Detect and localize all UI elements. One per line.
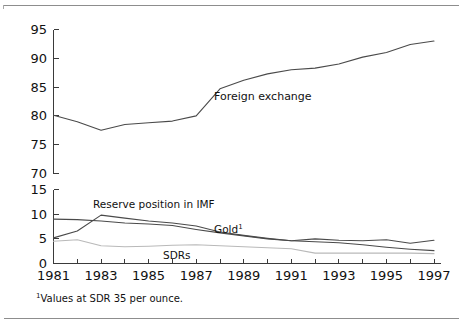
lower-ytick-label-5: 5: [39, 231, 47, 246]
footnote-text: Values at SDR 35 per ounce.: [40, 293, 183, 304]
upper-ytick-label-85: 85: [30, 80, 47, 95]
line-foreign-exchange: [54, 41, 435, 130]
x-tick-label-1993: 1993: [322, 268, 355, 283]
upper-ytick-label-95: 95: [30, 22, 47, 37]
upper-ytick-label-75: 75: [30, 137, 47, 152]
chart-svg: 95 90 85 80 75 70 Foreign exchange 15 10…: [0, 0, 461, 327]
label-reserve-position-in-imf: Reserve position in IMF: [93, 198, 215, 210]
x-tick-label-1981: 1981: [37, 268, 70, 283]
x-tick-label-1991: 1991: [275, 268, 308, 283]
footnote: 1Values at SDR 35 per ounce.: [36, 292, 183, 304]
label-gold-superscript: 1: [238, 223, 242, 231]
x-tick-label-1997: 1997: [417, 268, 450, 283]
x-tick-label-1995: 1995: [370, 268, 403, 283]
x-tick-label-1987: 1987: [180, 268, 213, 283]
x-axis-ticks: [54, 259, 435, 264]
label-foreign-exchange: Foreign exchange: [214, 90, 312, 103]
upper-ytick-label-70: 70: [30, 166, 47, 181]
upper-ytick-label-90: 90: [30, 51, 47, 66]
figure-container: 95 90 85 80 75 70 Foreign exchange 15 10…: [0, 0, 461, 327]
label-gold-text: Gold: [214, 223, 238, 235]
lower-ytick-label-10: 10: [30, 207, 47, 222]
label-gold: Gold1: [214, 223, 243, 235]
x-tick-label-1989: 1989: [227, 268, 260, 283]
lower-panel: 15 10 5 0 198119831985198719891991199319…: [30, 182, 450, 283]
upper-panel: 95 90 85 80 75 70 Foreign exchange: [30, 22, 434, 181]
x-tick-label-1983: 1983: [85, 268, 118, 283]
line-reserve-position-in-imf: [54, 215, 435, 243]
x-axis-tick-labels: 198119831985198719891991199319951997: [37, 268, 451, 283]
label-sdrs: SDRs: [163, 249, 191, 261]
x-tick-label-1985: 1985: [132, 268, 165, 283]
lower-ytick-label-15: 15: [30, 182, 47, 197]
upper-ytick-label-80: 80: [30, 108, 47, 123]
